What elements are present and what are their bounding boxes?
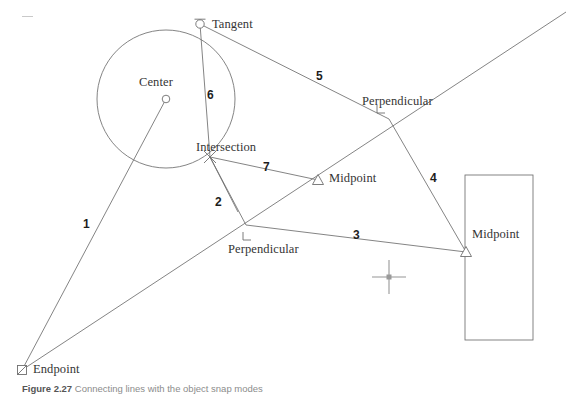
osnap-label-center: Center	[139, 76, 173, 89]
geometry-canvas: .ln { stroke: #6e6e6e; stroke-width: 0.8…	[0, 0, 569, 396]
construction-rectangle	[465, 175, 533, 340]
figure-caption-text: Connecting lines with the object snap mo…	[75, 383, 263, 394]
segment-number-3: 3	[353, 229, 360, 241]
segment-1-line	[22, 99, 166, 370]
figure-caption-label: Figure 2.27	[22, 383, 72, 394]
long-construction-ray	[22, 12, 566, 370]
osnap-label-intersection: Intersection	[196, 141, 256, 154]
segment-number-4: 4	[430, 172, 437, 184]
osnap-label-tangent: Tangent	[212, 18, 253, 31]
crosshair-cursor	[372, 260, 406, 294]
segment-number-5: 5	[316, 70, 323, 82]
tangent-marker	[195, 19, 206, 28]
osnap-label-midpoint-middle: Midpoint	[329, 172, 376, 185]
segment-number-2: 2	[215, 196, 222, 208]
segment-number-1: 1	[83, 218, 90, 230]
perpendicular-marker-lower	[243, 232, 251, 240]
endpoint-marker	[18, 366, 27, 375]
center-marker	[162, 95, 170, 103]
osnap-label-perpendicular-upper: Perpendicular	[362, 95, 433, 108]
segment-number-6: 6	[207, 89, 214, 101]
figure-caption: Figure 2.27 Connecting lines with the ob…	[22, 383, 552, 394]
osnap-label-midpoint-right: Midpoint	[472, 228, 519, 241]
segment-4-line	[389, 119, 466, 252]
segment-5-line	[200, 24, 389, 119]
osnap-label-endpoint: Endpoint	[33, 363, 80, 376]
osnap-label-perpendicular-lower: Perpendicular	[228, 243, 299, 256]
diagram-figure: .ln { stroke: #6e6e6e; stroke-width: 0.8…	[0, 0, 569, 396]
segment-number-7: 7	[263, 161, 270, 173]
